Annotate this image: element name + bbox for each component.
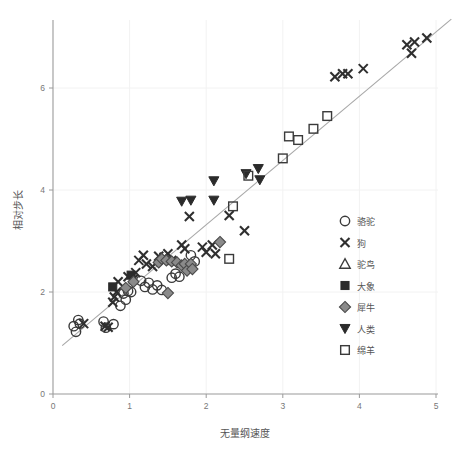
scatter-plot-figure: 0123450246 骆驼狗驼鸟大象犀牛人类绵羊 无量纲速度 相对步长 (0, 0, 466, 450)
legend-item-驼鸟[interactable]: 驼鸟 (333, 255, 399, 273)
data-point-marker (225, 211, 234, 220)
data-point-marker (294, 136, 303, 145)
data-point-marker (422, 34, 431, 43)
series-diamond-filled (120, 236, 225, 298)
y-tick-label: 6 (40, 83, 45, 93)
data-point-marker (209, 177, 219, 186)
legend-item-label: 犀牛 (357, 302, 375, 313)
x-tick-label: 2 (204, 401, 209, 411)
data-point-marker (410, 38, 419, 47)
data-point-marker (253, 165, 263, 174)
legend-item-label: 骆驼 (357, 216, 375, 227)
data-point-marker (180, 244, 189, 253)
data-point-marker (402, 40, 411, 49)
legend-item-人类[interactable]: 人类 (333, 320, 399, 338)
legend-marker-icon (341, 281, 349, 289)
series-square-open (225, 112, 332, 263)
data-point-marker (323, 112, 332, 121)
legend-item-犀牛[interactable]: 犀牛 (333, 298, 399, 316)
data-point-marker (185, 212, 194, 221)
x-tick-label: 0 (51, 401, 56, 411)
x-tick-label: 5 (434, 401, 439, 411)
legend-item-绵羊[interactable]: 绵羊 (333, 341, 399, 359)
data-point-marker (359, 64, 368, 73)
data-point-marker (139, 251, 148, 260)
legend-item-狗[interactable]: 狗 (333, 234, 399, 252)
data-point-marker (407, 49, 416, 58)
legend-item-label: 绵羊 (357, 345, 375, 356)
data-point-marker (255, 176, 265, 185)
grid-lines (53, 20, 438, 394)
data-point-marker (285, 132, 294, 141)
legend-item-大象[interactable]: 大象 (333, 277, 399, 295)
legend-item-hitbox (333, 234, 399, 252)
axes (53, 20, 438, 394)
legend-item-label: 驼鸟 (357, 259, 375, 270)
legend-item-骆驼[interactable]: 骆驼 (333, 212, 399, 230)
x-axis-title: 无量纲速度 (220, 427, 270, 439)
data-point-marker (162, 287, 173, 298)
data-point-marker (186, 196, 196, 205)
data-point-marker (225, 255, 234, 264)
legend-item-label: 狗 (357, 238, 366, 249)
data-point-marker (109, 283, 117, 291)
chart-canvas: 0123450246 骆驼狗驼鸟大象犀牛人类绵羊 无量纲速度 相对步长 (0, 0, 466, 450)
data-point-marker (209, 196, 219, 205)
y-tick-label: 2 (40, 287, 45, 297)
x-tick-label: 4 (357, 401, 362, 411)
y-axis-title: 相对步长 (12, 190, 24, 230)
legend-item-label: 人类 (357, 324, 375, 335)
data-point-marker (343, 69, 352, 78)
legend[interactable]: 骆驼狗驼鸟大象犀牛人类绵羊 (333, 212, 399, 359)
data-point-marker (229, 202, 238, 211)
data-point-marker (214, 236, 225, 247)
data-point-marker (211, 249, 220, 258)
x-tick-label: 3 (280, 401, 285, 411)
data-point-marker (240, 226, 249, 235)
data-point-marker (69, 321, 78, 330)
y-tick-label: 4 (40, 185, 45, 195)
y-tick-label: 0 (40, 389, 45, 399)
x-tick-label: 1 (127, 401, 132, 411)
data-point-marker (177, 197, 187, 206)
legend-item-label: 大象 (357, 281, 375, 292)
